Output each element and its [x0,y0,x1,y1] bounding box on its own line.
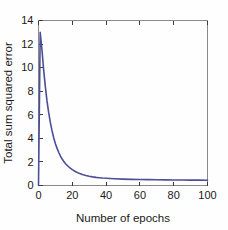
chart-plot-area: 020406080100 02468101214 Number of epoch… [0,0,228,230]
x-tick-label: 60 [134,189,146,201]
y-tick-label: 12 [21,38,33,50]
y-tick-label: 10 [21,61,33,73]
y-tick-label: 14 [21,14,33,26]
chart-figure: 020406080100 02468101214 Number of epoch… [0,0,228,230]
y-tick-label: 4 [27,132,33,144]
y-tick-label: 6 [27,109,33,121]
x-tick-label: 0 [35,189,41,201]
y-axis-title: Total sum squared error [2,42,14,164]
y-tick-label: 0 [27,179,33,191]
x-axis-tick-labels: 020406080100 [35,189,216,201]
x-tick-label: 80 [168,189,180,201]
x-axis-title: Number of epochs [76,212,170,224]
x-tick-label: 100 [198,189,216,201]
x-tick-label: 20 [66,189,78,201]
x-tick-label: 40 [100,189,112,201]
y-tick-label: 8 [27,85,33,97]
y-tick-label: 2 [27,156,33,168]
y-axis-tick-labels: 02468101214 [21,14,33,191]
